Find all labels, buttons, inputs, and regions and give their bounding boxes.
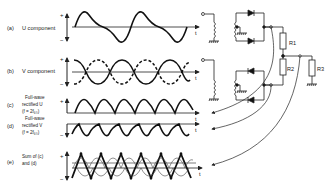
trace-a: (a) U component + − t [7,12,199,43]
connection-arrows [212,27,300,165]
plus-sign: + [60,153,64,159]
trace-d-line3: (f = 2f₆₀) [22,130,40,135]
minus-sign: − [60,37,64,43]
trace-a-prefix: (a) [7,25,14,31]
trace-e-line2: and (d) [22,161,37,166]
trace-b: (b) V component + − t [7,56,199,87]
trace-d: (d) Full-wave rectified V (f = 2f₆₀) − t [7,116,199,138]
trace-d-line2: rectified V [22,123,43,128]
plus-sign: + [60,98,64,104]
trace-d-line1: Full-wave [25,116,45,121]
trace-c-prefix: (c) [7,102,14,108]
trace-c-line3: (f = 2f₆₀) [22,109,40,114]
trace-a-label: U component [22,25,56,31]
resistor-r1-label: R1 [289,40,296,46]
resistor-r2-label: R2 [287,66,294,72]
trace-e-line1: Sum of (c) [22,154,44,159]
trace-d-prefix: (d) [7,123,14,129]
time-label: t [195,127,197,133]
trace-e-prefix: (e) [7,159,14,165]
circuit-u [202,10,273,44]
trace-c-line2: rectified U [22,102,43,107]
trace-e: (e) Sum of (c) and (d) + − t [7,152,202,182]
plus-sign: + [60,12,64,18]
time-label: t [195,116,197,122]
rectifier-diagram: (a) U component + − t (b) V component + … [0,0,330,190]
plus-sign: + [60,56,64,62]
time-label: t [195,75,197,81]
trace-b-label: V component [22,68,55,74]
resistor-network [264,27,317,86]
minus-sign: − [60,176,64,182]
minus-sign: − [60,81,64,87]
trace-c-line1: Full-wave [25,95,45,100]
resistor-r3-label: R3 [317,66,324,72]
circuit-v [202,59,273,104]
minus-sign: − [60,132,64,138]
trace-b-prefix: (b) [7,68,14,74]
time-label: t [199,171,201,177]
time-label: t [195,30,197,36]
